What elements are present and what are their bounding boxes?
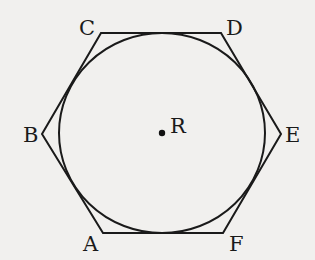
vertex-label-a: A: [83, 234, 98, 255]
vertex-label-b: B: [23, 125, 38, 146]
vertex-label-e: E: [285, 125, 300, 146]
hexagon-diagram: C D B E A F R: [0, 0, 315, 260]
vertex-label-f: F: [229, 234, 244, 255]
center-label-r: R: [170, 116, 186, 137]
vertex-label-d: D: [226, 18, 243, 39]
diagram-canvas: [0, 0, 315, 260]
center-point-r: [159, 130, 165, 136]
vertex-label-c: C: [79, 18, 95, 39]
